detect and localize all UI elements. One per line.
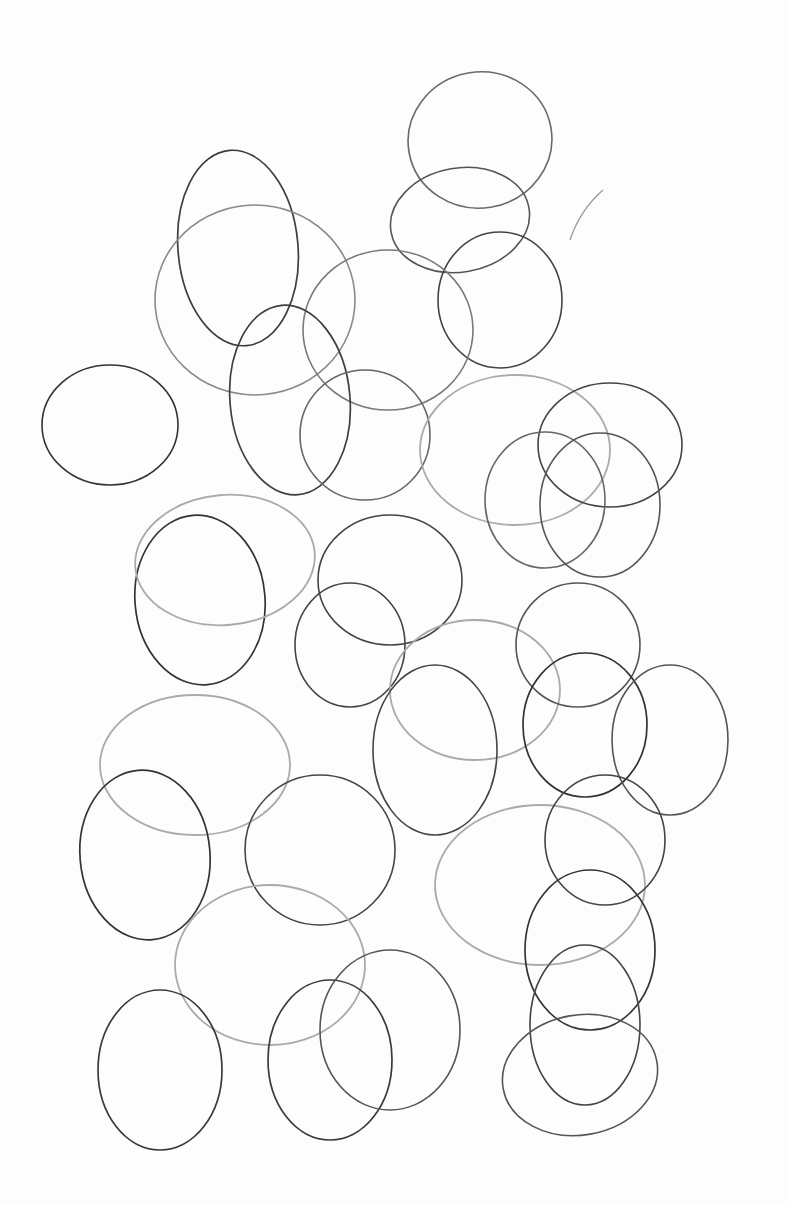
pencil-ellipse — [540, 433, 660, 577]
pencil-ellipse — [98, 990, 222, 1150]
overlapping-ellipses-drawing — [0, 0, 787, 1205]
pencil-ellipse — [530, 945, 640, 1105]
pencil-ellipse — [73, 765, 217, 946]
pencil-ellipse — [435, 805, 645, 965]
pencil-ellipse — [373, 665, 497, 835]
pencil-ellipse — [245, 775, 395, 925]
pencil-ellipse — [300, 370, 430, 500]
pencil-ellipse — [100, 695, 290, 835]
pencil-ellipse — [612, 665, 728, 815]
pencil-ellipse — [516, 583, 640, 707]
pencil-ellipse — [397, 61, 562, 220]
pencil-ellipse — [320, 950, 460, 1110]
pencil-ellipse — [268, 980, 392, 1140]
pencil-ellipse — [130, 487, 321, 632]
pencil-ellipse — [545, 775, 665, 905]
pencil-ellipse — [222, 300, 358, 500]
pencil-ellipse — [493, 1002, 667, 1147]
pencil-ellipse — [382, 157, 538, 284]
pencil-ellipse — [128, 510, 272, 691]
pencil-ellipse — [170, 145, 307, 351]
pencil-ellipse — [303, 250, 473, 410]
pencil-arc — [570, 190, 603, 240]
pencil-ellipse — [525, 870, 655, 1030]
pencil-ellipse — [155, 205, 355, 395]
pencil-ellipse — [523, 653, 647, 797]
pencil-ellipse — [42, 365, 178, 485]
pencil-ellipse — [175, 885, 365, 1045]
pencil-sketch-paper — [0, 0, 787, 1205]
pencil-ellipse — [438, 232, 562, 368]
